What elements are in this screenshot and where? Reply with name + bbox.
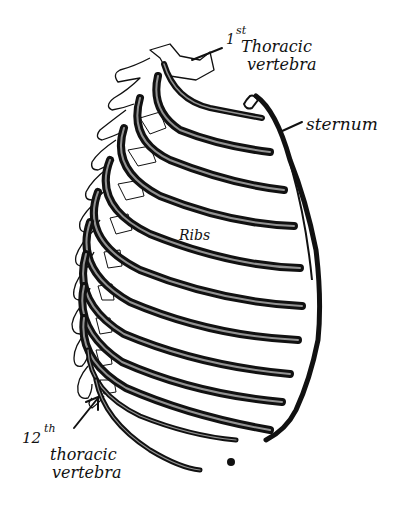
first-vertebra-pointer [192, 48, 222, 60]
label-ordinal-suffix: th [44, 422, 56, 435]
label-line2: vertebra [247, 55, 316, 74]
label-line1: thoracic [50, 445, 117, 464]
label-ordinal: 1 [226, 31, 235, 47]
label-sternum: sternum [306, 114, 378, 134]
label-twelfth-thoracic-vertebra: 12 th thoracic vertebra [22, 422, 121, 482]
label-ordinal: 12 [22, 429, 41, 447]
rib-tip [227, 458, 235, 466]
label-first-thoracic-vertebra: 1 st Thoracic vertebra [226, 24, 316, 74]
label-ordinal-suffix: st [236, 24, 247, 37]
rib-cage-diagram: 1 st Thoracic vertebra sternum Ribs 12 t… [0, 0, 417, 522]
sternum-pointer [280, 122, 302, 132]
label-ribs: Ribs [178, 227, 210, 243]
twelfth-vertebra-arrow [74, 397, 98, 428]
label-line1: Thoracic [241, 37, 312, 56]
label-line2: vertebra [52, 463, 121, 482]
